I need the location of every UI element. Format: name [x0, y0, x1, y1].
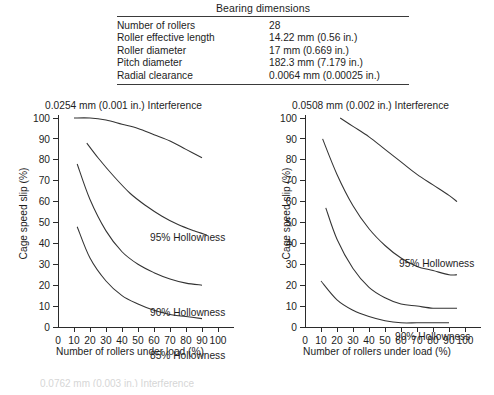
svg-text:40: 40 — [363, 335, 375, 346]
svg-text:70: 70 — [39, 175, 51, 186]
svg-text:60: 60 — [286, 196, 298, 207]
svg-text:0: 0 — [44, 322, 50, 333]
plot-area: 0102030405060708090100010203040506070809… — [247, 100, 494, 365]
svg-text:100: 100 — [210, 335, 227, 346]
table-cell-label: Pitch diameter — [117, 57, 269, 69]
svg-text:80: 80 — [180, 335, 192, 346]
chart-interference-0254: 0.0254 mm (0.001 in.) Interference Cage … — [0, 100, 247, 365]
svg-text:20: 20 — [84, 335, 96, 346]
table-cell-label: Roller diameter — [117, 45, 269, 57]
table-cell-label: Roller effective length — [117, 32, 269, 44]
table-cell-label: Number of rollers — [117, 20, 269, 32]
table-cell-value: 28 — [269, 20, 409, 32]
table-row: Roller effective length 14.22 mm (0.56 i… — [117, 32, 409, 44]
svg-text:95% Hollowness: 95% Hollowness — [150, 232, 225, 243]
svg-text:20: 20 — [39, 280, 51, 291]
svg-text:60: 60 — [148, 335, 160, 346]
svg-text:0: 0 — [291, 322, 297, 333]
svg-text:90: 90 — [286, 134, 298, 145]
svg-text:90: 90 — [39, 134, 51, 145]
svg-text:30: 30 — [100, 335, 112, 346]
svg-text:80: 80 — [286, 154, 298, 165]
svg-text:95% Hollowness: 95% Hollowness — [399, 258, 474, 269]
table-cell-label: Radial clearance — [117, 70, 269, 82]
table-cell-value: 14.22 mm (0.56 in.) — [269, 32, 409, 44]
svg-text:0: 0 — [302, 335, 308, 346]
svg-text:90: 90 — [196, 335, 208, 346]
chart-interference-0508: 0.0508 mm (0.002 in.) Interference Cage … — [247, 100, 494, 365]
bearing-dimensions-table: Bearing dimensions Number of rollers 28 … — [117, 2, 409, 85]
table-row: Radial clearance 0.0064 mm (0.00025 in.) — [117, 70, 409, 82]
svg-text:10: 10 — [315, 335, 327, 346]
svg-text:70: 70 — [164, 335, 176, 346]
svg-text:40: 40 — [286, 238, 298, 249]
svg-text:50: 50 — [132, 335, 144, 346]
svg-text:60: 60 — [39, 196, 51, 207]
table-rows: Number of rollers 28 Roller effective le… — [117, 17, 409, 84]
svg-text:90% Hollowness: 90% Hollowness — [150, 307, 225, 318]
svg-text:100: 100 — [33, 113, 50, 124]
svg-text:50: 50 — [39, 217, 51, 228]
table-row: Pitch diameter 182.3 mm (7.179 in.) — [117, 57, 409, 69]
svg-text:70: 70 — [286, 175, 298, 186]
table-row: Roller diameter 17 mm (0.669 in.) — [117, 45, 409, 57]
svg-text:20: 20 — [331, 335, 343, 346]
table-cell-value: 0.0064 mm (0.00025 in.) — [269, 70, 409, 82]
svg-text:10: 10 — [39, 301, 51, 312]
svg-text:50: 50 — [286, 217, 298, 228]
svg-text:30: 30 — [39, 259, 51, 270]
plot-area: 0102030405060708090100010203040506070809… — [0, 100, 247, 365]
svg-text:40: 40 — [116, 335, 128, 346]
table-cell-value: 17 mm (0.669 in.) — [269, 45, 409, 57]
table-row: Number of rollers 28 — [117, 20, 409, 32]
svg-text:80: 80 — [39, 154, 51, 165]
svg-text:85% Hollowness: 85% Hollowness — [150, 350, 225, 361]
svg-text:10: 10 — [68, 335, 80, 346]
svg-text:10: 10 — [286, 301, 298, 312]
svg-text:50: 50 — [379, 335, 391, 346]
svg-text:40: 40 — [39, 238, 51, 249]
table-title: Bearing dimensions — [117, 2, 409, 16]
svg-text:30: 30 — [347, 335, 359, 346]
svg-text:0: 0 — [55, 335, 61, 346]
table-cell-value: 182.3 mm (7.179 in.) — [269, 57, 409, 69]
svg-text:30: 30 — [286, 259, 298, 270]
svg-text:90% Hollowness: 90% Hollowness — [395, 331, 470, 342]
bottom-cutoff-caption: 0.0762 mm (0.003 in.) Interference — [40, 378, 194, 387]
table-rule-bottom — [117, 84, 409, 85]
svg-text:100: 100 — [280, 113, 297, 124]
svg-text:20: 20 — [286, 280, 298, 291]
